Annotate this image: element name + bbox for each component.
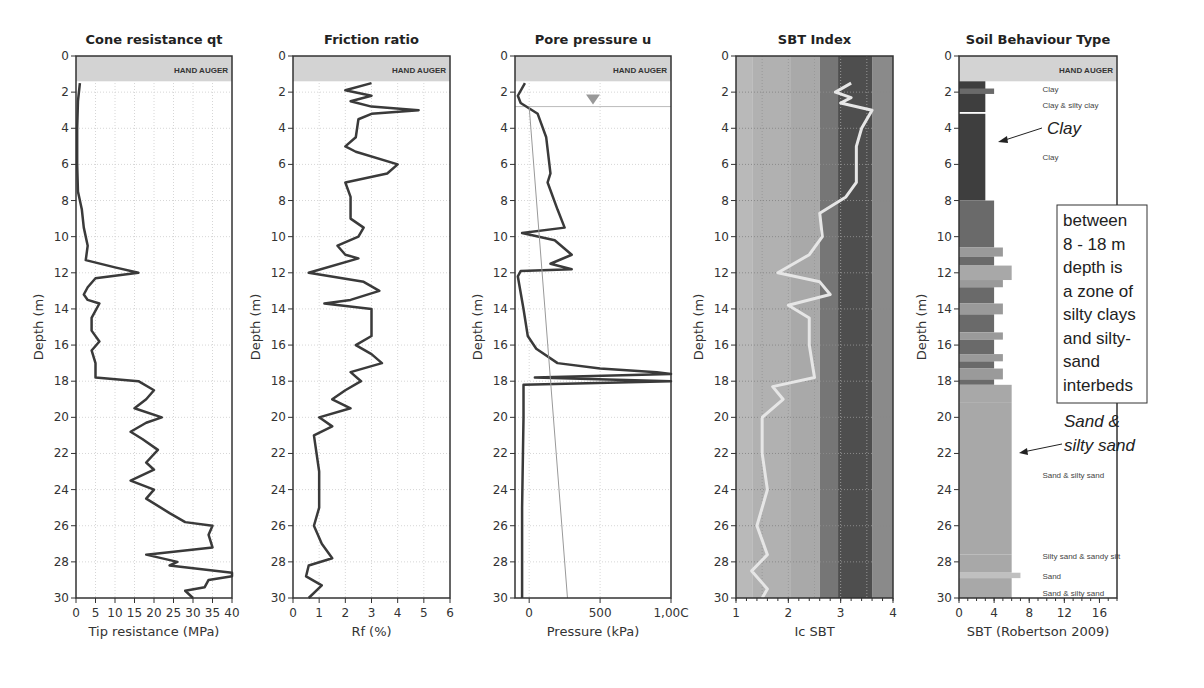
sbt-label: Clay [1042,85,1058,94]
sbt-zone [736,56,752,598]
x-tick-label: 10 [107,606,122,620]
y-tick-label: 6 [500,157,508,171]
y-tick-label: 24 [937,483,952,497]
x-tick-label: 4 [889,606,897,620]
panel-2: HAND AUGERFriction ratio0246810121416182… [248,32,454,639]
y-tick-label: 6 [721,157,729,171]
sbt-layer [959,354,1003,361]
y-tick-label: 28 [54,555,69,569]
y-tick-label: 2 [721,85,729,99]
sbt-label: Silty sand & sandy silt [1042,552,1121,561]
y-tick-label: 30 [937,591,952,605]
y-tick-label: 0 [944,49,952,63]
x-tick-label: 16 [1092,606,1107,620]
sbt-label: Clay [1042,153,1058,162]
x-tick-label: 5 [420,606,428,620]
y-tick-label: 16 [271,338,286,352]
data-series-line [306,83,419,598]
y-tick-label: 28 [714,555,729,569]
x-tick-label: 0 [955,606,963,620]
sbt-layer [959,379,994,384]
panel-1: HAND AUGERCone resistance qt024681012141… [31,32,240,639]
y-tick-label: 16 [493,338,508,352]
y-tick-label: 12 [54,266,69,280]
annotation-box-line: between [1063,211,1127,230]
annotation-box-line: sand [1063,352,1100,371]
y-tick-label: 10 [271,230,286,244]
sand-annotation-line1: Sand & [1064,412,1120,431]
sbt-layer [959,403,1012,555]
panel-title: Friction ratio [324,32,419,47]
y-tick-label: 8 [61,194,69,208]
annotation-box-line: and silty- [1063,329,1131,348]
sbt-layer [959,81,985,112]
y-tick-label: 2 [500,85,508,99]
y-tick-label: 26 [714,519,729,533]
x-tick-label: 3 [837,606,845,620]
y-tick-label: 8 [500,194,508,208]
y-tick-label: 0 [278,49,286,63]
y-tick-label: 26 [937,519,952,533]
y-tick-label: 24 [493,483,508,497]
y-tick-label: 20 [714,410,729,424]
y-tick-label: 10 [714,230,729,244]
y-tick-label: 26 [271,519,286,533]
y-tick-label: 2 [61,85,69,99]
y-tick-label: 0 [500,49,508,63]
x-tick-label: 8 [1025,606,1033,620]
y-tick-label: 18 [493,374,508,388]
y-tick-label: 14 [54,302,69,316]
annotation-box-line: depth is [1063,258,1123,277]
y-tick-label: 14 [714,302,729,316]
panel-3: HAND AUGERPore pressure u024681012141618… [470,32,689,639]
x-tick-label: 12 [1057,606,1072,620]
x-tick-label: 4 [394,606,402,620]
sbt-layer [959,361,994,368]
y-tick-label: 28 [493,555,508,569]
data-series-line [77,83,232,598]
arrowhead-icon [998,136,1008,143]
y-tick-label: 10 [937,230,952,244]
sbt-label: Sand & silty sand [1042,589,1104,598]
x-tick-label: 4 [990,606,998,620]
x-axis-label: Rf (%) [351,624,391,639]
x-tick-label: 40 [224,606,239,620]
y-axis-label: Depth (m) [470,294,485,361]
y-tick-label: 16 [937,338,952,352]
y-tick-label: 24 [54,483,69,497]
y-tick-label: 22 [937,446,952,460]
y-tick-label: 18 [937,374,952,388]
y-tick-label: 30 [714,591,729,605]
sbt-layer [959,369,1003,380]
sbt-layer [959,280,1003,287]
y-tick-label: 14 [493,302,508,316]
y-tick-label: 6 [61,157,69,171]
y-tick-label: 18 [54,374,69,388]
x-tick-label: 1,00C [653,606,688,620]
y-axis-label: Depth (m) [914,294,929,361]
hand-auger-label: HAND AUGER [392,66,446,75]
sbt-layer [959,304,1003,315]
x-tick-label: 500 [589,606,612,620]
x-axis-label: Tip resistance (MPa) [88,624,220,639]
x-tick-label: 25 [166,606,181,620]
sbt-layer [959,578,1012,598]
y-axis-label: Depth (m) [691,294,706,361]
sbt-layer [959,201,994,248]
y-tick-label: 6 [278,157,286,171]
y-tick-label: 16 [714,338,729,352]
y-tick-label: 14 [937,302,952,316]
arrow-icon [1002,128,1042,141]
sbt-layer [959,89,994,94]
x-tick-label: 30 [185,606,200,620]
y-tick-label: 18 [271,374,286,388]
sbt-layer [959,573,1020,578]
x-tick-label: 5 [92,606,100,620]
y-tick-label: 2 [944,85,952,99]
y-tick-label: 30 [54,591,69,605]
y-tick-label: 8 [721,194,729,208]
y-tick-label: 12 [271,266,286,280]
y-tick-label: 4 [721,121,729,135]
y-tick-label: 2 [278,85,286,99]
y-axis-label: Depth (m) [31,294,46,361]
